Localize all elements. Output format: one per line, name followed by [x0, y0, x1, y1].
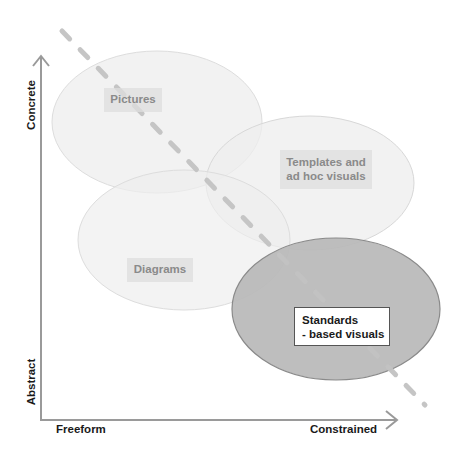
x-axis-right-label: Constrained — [310, 423, 377, 435]
y-axis-bottom-label: Abstract — [25, 359, 37, 406]
diagram-canvas — [0, 0, 467, 464]
standards-label: Standards - based visuals — [294, 307, 390, 346]
pictures-label: Pictures — [104, 88, 162, 112]
diagrams-label-text: Diagrams — [133, 262, 187, 276]
templates-label-line-1: Templates and — [286, 155, 366, 169]
x-axis-left-label: Freeform — [56, 423, 106, 435]
pictures-label-text: Pictures — [110, 92, 156, 106]
templates-label: Templates and ad hoc visuals — [280, 150, 372, 189]
standards-label-line-2: - based visuals — [302, 327, 382, 341]
standards-label-line-1: Standards — [302, 313, 382, 327]
templates-label-line-2: ad hoc visuals — [286, 169, 366, 183]
diagrams-label: Diagrams — [127, 258, 193, 282]
y-axis-top-label: Concrete — [25, 80, 37, 130]
